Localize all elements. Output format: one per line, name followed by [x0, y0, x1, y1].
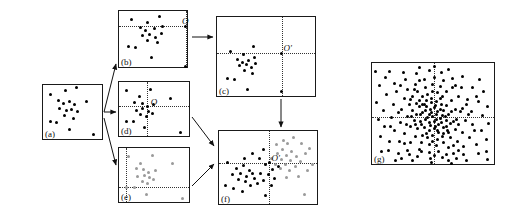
- data-point: [439, 85, 442, 88]
- data-point: [461, 75, 464, 78]
- data-point: [142, 168, 145, 171]
- data-point: [413, 119, 416, 122]
- scatter-panel-g: (g): [371, 62, 495, 165]
- data-point: [49, 120, 52, 123]
- data-point: [447, 131, 450, 134]
- data-point: [264, 163, 267, 166]
- data-point: [461, 131, 464, 134]
- data-point: [57, 99, 60, 102]
- data-point: [232, 187, 235, 190]
- data-point: [450, 99, 453, 102]
- data-point: [245, 175, 248, 178]
- data-point: [434, 104, 437, 107]
- data-point: [416, 90, 419, 93]
- data-point: [418, 99, 421, 102]
- data-point: [471, 123, 474, 126]
- data-point: [58, 107, 61, 110]
- data-point: [149, 88, 152, 91]
- data-point: [442, 79, 445, 82]
- data-point: [242, 53, 245, 56]
- panel-label-a: (a): [45, 129, 55, 140]
- data-point: [402, 71, 405, 74]
- data-point: [477, 152, 480, 155]
- data-point: [284, 163, 287, 166]
- data-point: [441, 135, 444, 138]
- data-point: [154, 169, 157, 172]
- data-point: [393, 82, 396, 85]
- data-point: [481, 114, 484, 117]
- data-point: [428, 69, 431, 72]
- data-point: [280, 90, 283, 93]
- data-point: [286, 142, 289, 145]
- data-point: [143, 126, 146, 129]
- data-point: [241, 61, 244, 64]
- data-point: [464, 119, 467, 122]
- data-point: [455, 118, 458, 121]
- data-point: [290, 150, 293, 153]
- data-point: [447, 146, 450, 149]
- data-point: [144, 29, 147, 32]
- data-point: [238, 64, 241, 67]
- data-point: [147, 110, 150, 113]
- data-point: [452, 144, 455, 147]
- data-point: [377, 118, 380, 121]
- data-point: [92, 133, 95, 136]
- data-point: [141, 107, 144, 110]
- data-point: [285, 154, 288, 157]
- panel-label-f: (f): [221, 194, 230, 205]
- data-point: [62, 102, 65, 105]
- data-point: [273, 177, 276, 180]
- data-point: [253, 177, 256, 180]
- data-point: [486, 158, 489, 161]
- data-point: [475, 143, 478, 146]
- data-point: [247, 59, 250, 62]
- data-point: [431, 134, 434, 137]
- data-point: [249, 184, 252, 187]
- data-point: [400, 108, 403, 111]
- data-point: [243, 157, 246, 160]
- data-point: [457, 149, 460, 152]
- data-point: [439, 108, 442, 111]
- data-point: [487, 122, 490, 125]
- data-point: [281, 148, 284, 151]
- data-point: [414, 135, 417, 138]
- data-point: [414, 123, 417, 126]
- data-point: [267, 173, 270, 176]
- data-point: [297, 175, 300, 178]
- data-point: [374, 70, 377, 73]
- data-point: [146, 105, 149, 108]
- data-point: [156, 41, 159, 44]
- data-point: [460, 86, 463, 89]
- scatter-panel-b: O(b): [118, 10, 188, 68]
- data-point: [134, 46, 137, 49]
- data-point: [442, 141, 445, 144]
- data-point: [433, 65, 436, 68]
- data-point: [442, 132, 445, 135]
- panel-label-e: (e): [121, 192, 131, 203]
- data-point: [420, 141, 423, 144]
- data-point: [435, 144, 438, 147]
- data-point: [241, 190, 244, 193]
- data-point: [440, 71, 443, 74]
- data-point: [76, 110, 79, 113]
- data-point: [482, 90, 485, 93]
- data-point: [424, 109, 427, 112]
- data-point: [405, 123, 408, 126]
- data-point: [452, 152, 455, 155]
- data-point: [456, 140, 459, 143]
- data-point: [151, 154, 154, 157]
- data-point: [478, 78, 481, 81]
- data-point: [415, 113, 418, 116]
- scatter-panel-a: (a): [42, 84, 103, 140]
- data-point: [475, 95, 478, 98]
- data-point: [420, 150, 423, 153]
- data-point: [239, 172, 242, 175]
- data-point: [451, 77, 454, 80]
- crosshair-vertical-c: [282, 17, 283, 96]
- data-point: [399, 84, 402, 87]
- data-point: [389, 125, 392, 128]
- data-point: [388, 70, 391, 73]
- data-point: [398, 140, 401, 143]
- data-point: [418, 79, 421, 82]
- data-point: [467, 113, 470, 116]
